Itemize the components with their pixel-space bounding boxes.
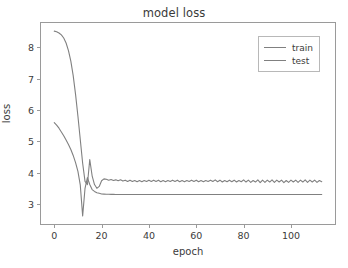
legend-item-test: test bbox=[264, 54, 313, 67]
y-tick-label: 5 bbox=[4, 136, 34, 147]
x-tick-label: 60 bbox=[181, 230, 211, 241]
legend-label-train: train bbox=[292, 43, 313, 53]
x-tick-mark bbox=[102, 225, 103, 228]
y-tick-label: 4 bbox=[4, 167, 34, 178]
legend-line-train bbox=[264, 47, 286, 48]
x-tick-mark bbox=[54, 225, 55, 228]
y-tick-label: 3 bbox=[4, 198, 34, 209]
line-series-train bbox=[54, 123, 321, 216]
x-tick-mark bbox=[149, 225, 150, 228]
y-tick-label: 6 bbox=[4, 105, 34, 116]
legend-item-train: train bbox=[264, 41, 313, 54]
x-tick-mark bbox=[244, 225, 245, 228]
x-tick-label: 80 bbox=[229, 230, 259, 241]
legend-line-test bbox=[264, 60, 286, 61]
y-tick-label: 7 bbox=[4, 73, 34, 84]
chart-figure: model loss loss 345678 020406080100 epoc… bbox=[0, 0, 348, 268]
x-tick-label: 20 bbox=[87, 230, 117, 241]
chart-legend: train test bbox=[258, 36, 320, 72]
y-tick-label: 8 bbox=[4, 42, 34, 53]
x-tick-mark bbox=[196, 225, 197, 228]
x-tick-label: 100 bbox=[276, 230, 306, 241]
x-axis-label: epoch bbox=[40, 246, 336, 257]
x-tick-label: 40 bbox=[134, 230, 164, 241]
chart-title: model loss bbox=[0, 6, 348, 20]
x-tick-label: 0 bbox=[39, 230, 69, 241]
legend-label-test: test bbox=[292, 56, 309, 66]
x-tick-mark bbox=[291, 225, 292, 228]
